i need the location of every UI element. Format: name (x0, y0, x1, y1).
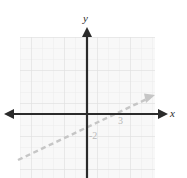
x-intercept-label: 3 (118, 116, 123, 126)
graph-canvas (0, 0, 187, 178)
y-axis-label: y (83, 13, 88, 24)
x-axis-left-arrowhead (4, 109, 14, 119)
y-intercept-label: -2 (89, 131, 97, 141)
x-axis-right-arrowhead (158, 109, 168, 119)
x-axis-label: x (170, 108, 175, 119)
y-axis-top-arrowhead (82, 27, 92, 37)
coordinate-plane-figure: y x -2 3 (0, 0, 187, 178)
